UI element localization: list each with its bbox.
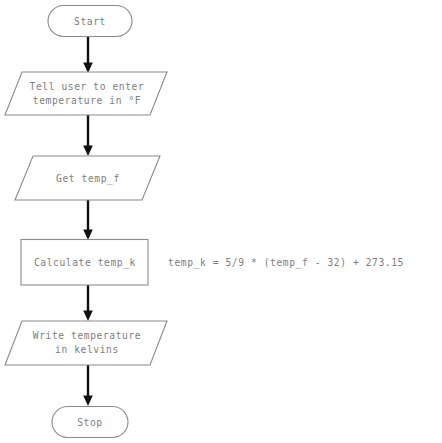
- connector-output-to-stop: [83, 365, 93, 406]
- prompt-parallelogram-shape: [5, 72, 167, 115]
- output-label-line-2: in kelvins: [55, 344, 119, 355]
- prompt-label-line-1: Tell user to enter: [30, 81, 145, 92]
- prompt-label-line-2: temperature in °F: [33, 95, 141, 106]
- connector-prompt-to-input: [83, 115, 93, 156]
- node-prompt[interactable]: Tell user to enter temperature in °F: [5, 72, 167, 115]
- node-input[interactable]: Get temp_f: [15, 156, 160, 200]
- flowchart-canvas: Start Tell user to enter temperature in …: [0, 0, 442, 443]
- node-stop[interactable]: Stop: [52, 407, 128, 438]
- node-calculate[interactable]: Calculate temp_k: [21, 240, 148, 286]
- connector-start-to-prompt: [83, 36, 93, 73]
- node-output[interactable]: Write temperature in kelvins: [5, 321, 167, 365]
- node-start[interactable]: Start: [48, 6, 132, 37]
- output-label-line-1: Write temperature: [33, 330, 141, 341]
- connector-input-to-calculate: [83, 200, 93, 240]
- calculate-label: Calculate temp_k: [34, 257, 136, 269]
- connector-calculate-to-output: [83, 285, 93, 321]
- formula-annotation: temp_k = 5/9 * (temp_f - 32) + 273.15: [168, 257, 404, 269]
- stop-label: Stop: [77, 417, 103, 428]
- output-parallelogram-shape: [5, 321, 167, 365]
- start-label: Start: [74, 16, 106, 27]
- input-label: Get temp_f: [56, 173, 120, 185]
